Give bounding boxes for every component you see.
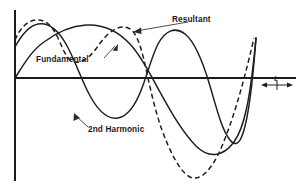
label-time-marker: t (274, 75, 277, 83)
label-fundamental: Fundamental (36, 56, 89, 64)
leader-fundamental (104, 44, 118, 58)
waveform-plot (0, 0, 298, 194)
curve-resultant (15, 20, 254, 178)
label-resultant: Resultant (172, 16, 211, 24)
time-interval-marker (261, 80, 293, 90)
label-second-harmonic: 2nd Harmonic (88, 126, 144, 134)
curve-fundamental (15, 25, 256, 155)
leader-second-harmonic (74, 113, 89, 127)
waveform-figure: Resultant Fundamental 2nd Harmonic t (0, 0, 298, 194)
